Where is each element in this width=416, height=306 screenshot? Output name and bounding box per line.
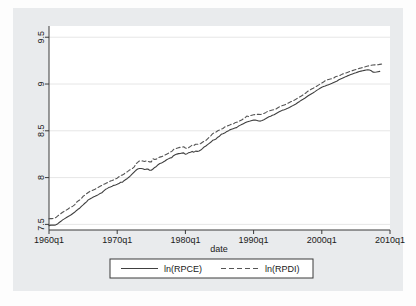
y-tick-label: 9.5 (36, 31, 46, 44)
legend-label-rpdi: ln(RPDI) (265, 264, 300, 274)
y-tick-label: 7.5 (36, 218, 46, 231)
x-axis-ticks: 1960q11970q11980q11990q12000q12010q1 (34, 230, 405, 245)
x-axis-title: date (210, 244, 228, 254)
y-tick-label: 8.5 (36, 125, 46, 138)
line-chart: 7.588.599.5 1960q11970q11980q11990q12000… (0, 0, 416, 306)
x-tick-label: 2000q1 (307, 235, 337, 245)
y-axis-ticks: 7.588.599.5 (36, 31, 49, 231)
y-tick-label: 8 (36, 175, 46, 180)
legend-label-rpce: ln(RPCE) (164, 264, 202, 274)
x-tick-label: 1970q1 (102, 235, 132, 245)
x-tick-label: 1960q1 (34, 235, 64, 245)
chart-figure: 7.588.599.5 1960q11970q11980q11990q12000… (0, 0, 416, 306)
x-tick-label: 2010q1 (375, 235, 405, 245)
plot-background (49, 26, 390, 230)
x-tick-label: 1990q1 (239, 235, 269, 245)
y-tick-label: 9 (36, 82, 46, 87)
x-tick-label: 1980q1 (170, 235, 200, 245)
